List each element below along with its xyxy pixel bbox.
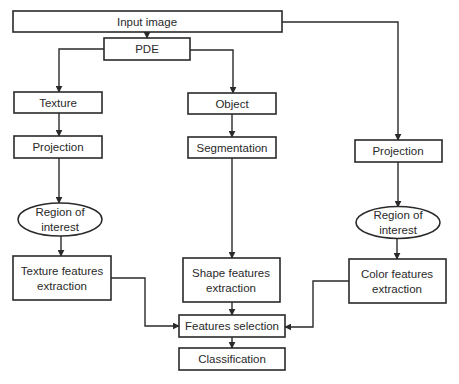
node-label: Segmentation: [197, 142, 268, 154]
node-label-line1: Shape features: [192, 267, 270, 279]
node-label: Texture: [39, 97, 77, 109]
node-pde: PDE: [104, 38, 190, 60]
node-label-line1: Texture features: [21, 265, 104, 277]
node-texture-features: Texture features extraction: [13, 256, 111, 300]
node-label-line2: extraction: [37, 280, 87, 292]
node-label: Input image: [117, 16, 177, 28]
node-label-line2: extraction: [372, 283, 422, 295]
edge-color-features-to-selection: [285, 281, 349, 327]
node-label-line1: Region of: [373, 209, 423, 221]
node-classification: Classification: [179, 348, 285, 370]
flowchart-diagram: Input image PDE Texture Object Projectio…: [0, 0, 459, 384]
node-label-line1: Region of: [35, 206, 85, 218]
node-color-features: Color features extraction: [349, 259, 446, 303]
node-label: Projection: [32, 141, 83, 153]
edge-pde-to-texture: [59, 49, 104, 92]
node-object: Object: [188, 93, 276, 114]
node-label-line2: interest: [379, 224, 418, 236]
node-texture: Texture: [14, 92, 102, 113]
node-shape-features: Shape features extraction: [183, 258, 280, 302]
node-label-line1: Color features: [361, 268, 433, 280]
node-roi-left: Region of interest: [18, 203, 102, 236]
node-input-image: Input image: [13, 11, 282, 32]
node-label: Classification: [198, 353, 266, 365]
node-label-line2: interest: [41, 221, 80, 233]
node-roi-right: Region of interest: [356, 207, 440, 239]
node-features-selection: Features selection: [179, 315, 285, 337]
node-label: Projection: [372, 145, 423, 157]
edge-texture-features-to-selection: [111, 278, 179, 326]
edge-input-to-projection-right: [282, 22, 398, 140]
node-label: Features selection: [185, 320, 279, 332]
edge-pde-to-object: [190, 50, 233, 93]
node-label-line2: extraction: [206, 282, 256, 294]
node-label: Object: [215, 98, 249, 110]
node-projection-left: Projection: [14, 136, 102, 158]
node-projection-right: Projection: [355, 140, 442, 162]
node-segmentation: Segmentation: [188, 137, 276, 158]
node-label: PDE: [135, 43, 159, 55]
